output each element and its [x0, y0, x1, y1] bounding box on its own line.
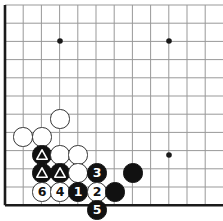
- black-stone-move-1[interactable]: 1: [68, 182, 87, 201]
- white-stone-e[interactable]: [68, 145, 87, 164]
- white-stone-b[interactable]: [13, 127, 32, 146]
- black-stone-triangle-b[interactable]: [32, 163, 51, 182]
- black-stone-move-5[interactable]: 5: [87, 200, 106, 219]
- star-point-lower-right: [166, 152, 172, 158]
- star-point-upper-left: [57, 38, 63, 44]
- go-board-diagram: 364125: [0, 0, 223, 221]
- black-stone-triangle-a[interactable]: [32, 145, 51, 164]
- white-stone-a[interactable]: [50, 109, 69, 128]
- white-stone-move-6[interactable]: 6: [32, 182, 51, 201]
- triangle-marker-icon: [32, 146, 51, 165]
- stone-move-number: 5: [93, 204, 102, 217]
- white-stone-move-2[interactable]: 2: [87, 182, 106, 201]
- black-stone-move-3[interactable]: 3: [87, 163, 106, 182]
- stone-move-number: 2: [93, 186, 102, 199]
- white-stone-c[interactable]: [32, 127, 51, 146]
- stone-move-number: 6: [38, 186, 47, 199]
- white-stone-f[interactable]: [68, 163, 87, 182]
- black-stone-g[interactable]: [123, 163, 142, 182]
- stone-move-number: 1: [74, 186, 83, 199]
- black-stone-h[interactable]: [105, 182, 124, 201]
- white-stone-d[interactable]: [50, 145, 69, 164]
- triangle-marker-icon: [32, 164, 51, 183]
- black-stone-triangle-c[interactable]: [50, 163, 69, 182]
- stone-move-number: 3: [93, 167, 102, 180]
- stone-move-number: 4: [56, 186, 65, 199]
- triangle-marker-icon: [50, 164, 69, 183]
- star-point-upper-right: [166, 38, 172, 44]
- white-stone-move-4[interactable]: 4: [50, 182, 69, 201]
